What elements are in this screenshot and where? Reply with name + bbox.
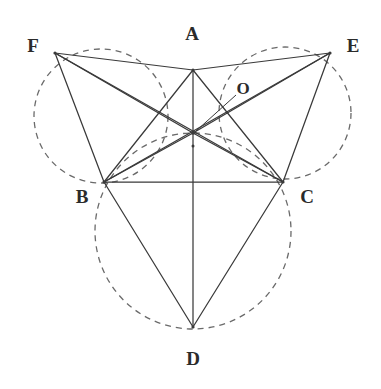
circle-AEC [219,47,351,179]
vertex-label-E: E [347,36,360,55]
segment-EC [283,53,330,182]
segment-OB [104,133,193,182]
segment-FB [55,53,104,182]
segment-AB [104,70,193,182]
incenter-marker [192,145,195,148]
vertex-marker-O [191,131,195,135]
segment-OC [193,133,283,182]
vertex-label-D: D [186,349,200,368]
leader-line-O [196,95,236,131]
solid-segments-group [55,53,330,327]
vertex-marker-D [191,325,194,328]
vertex-marker-C [281,180,284,183]
vertex-marker-A [191,68,194,71]
vertex-marker-B [102,180,105,183]
circle-FAB [34,49,168,183]
vertex-marker-F [53,51,56,54]
vertex-label-F: F [27,36,39,55]
vertex-label-O: O [236,80,249,97]
vertex-label-B: B [76,187,89,206]
geometry-figure: A B C D E F O [0,0,381,389]
vertex-label-A: A [185,24,199,43]
segment-BD [104,182,193,327]
segment-FA [55,53,193,70]
vertex-marker-E [328,51,331,54]
segment-AE [193,53,330,70]
vertex-label-C: C [300,187,314,206]
segment-CD [193,182,283,327]
figure-canvas [0,0,381,389]
segment-FC [55,53,283,182]
